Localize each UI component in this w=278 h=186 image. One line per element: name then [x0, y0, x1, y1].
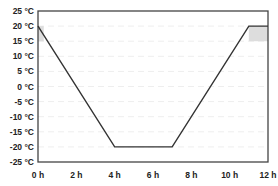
y-tick-label: -10 °C	[0, 112, 34, 122]
y-tick-label: 20 °C	[0, 21, 34, 31]
y-tick-label: 25 °C	[0, 6, 34, 16]
x-tick-label: 4 h	[100, 170, 130, 180]
plot-area	[0, 0, 278, 186]
shaded-region	[249, 26, 268, 41]
x-tick-label: 12 h	[253, 170, 278, 180]
y-tick-label: 0 °C	[0, 82, 34, 92]
x-tick-label: 6 h	[138, 170, 168, 180]
y-tick-label: 10 °C	[0, 51, 34, 61]
y-tick-label: -20 °C	[0, 142, 34, 152]
y-tick-label: 5 °C	[0, 66, 34, 76]
x-tick-label: 10 h	[215, 170, 245, 180]
y-tick-label: 15 °C	[0, 36, 34, 46]
y-tick-label: -5 °C	[0, 97, 34, 107]
x-tick-label: 8 h	[176, 170, 206, 180]
y-tick-label: -15 °C	[0, 127, 34, 137]
temperature-chart: 25 °C20 °C15 °C10 °C5 °C0 °C-5 °C-10 °C-…	[0, 0, 278, 186]
x-tick-label: 0 h	[23, 170, 53, 180]
x-tick-label: 2 h	[61, 170, 91, 180]
y-tick-label: -25 °C	[0, 157, 34, 167]
